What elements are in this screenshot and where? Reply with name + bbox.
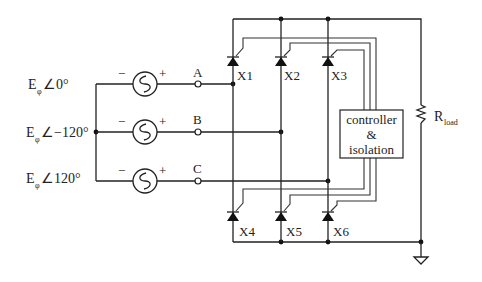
terminal-a-label: A [193,65,203,80]
thyristor-x6-label: X6 [333,224,349,239]
phase-b: − + B E φ ∠−120° [26,112,283,144]
source-c-label-sub: φ [35,181,40,190]
controller-label-line2: & [366,127,376,142]
gate-lead-x6 [331,158,376,211]
source-a-label-angle: ∠0° [43,77,69,92]
thyristor-x1: X1 [227,38,376,110]
thyristor-x6: X6 [322,158,376,239]
source-c-minus: − [118,163,125,178]
controller-isolation-block: controller & isolation [340,110,403,158]
load-label-main: R [434,109,444,124]
thyristor-x1-icon [227,57,239,66]
phase-a: − + A E φ ∠0° [28,65,233,96]
terminal-c [195,178,201,184]
thyristor-x1-label: X1 [237,68,253,83]
thyristor-x5-icon [275,212,287,221]
gate-lead-x1 [236,38,376,110]
ground-icon [414,242,428,264]
load-resistor: R load [417,105,458,127]
gate-lead-x4 [236,158,364,211]
thyristor-x2-icon [275,57,287,66]
thyristor-x2: X2 [275,43,370,110]
resistor-icon [417,105,425,123]
source-b-label-angle: ∠−120° [41,125,89,140]
source-b-label-main: E [26,125,35,140]
source-c-label-main: E [26,171,35,186]
source-a-label-sub: φ [37,87,42,96]
circuit-diagram: − + A E φ ∠0° − + B E φ ∠−120° − + C E φ… [0,0,482,282]
thyristor-x4-label: X4 [239,224,255,239]
thyristor-x6-icon [322,212,334,221]
source-c-plus: + [159,163,166,178]
controller-label-line1: controller [346,112,397,127]
phase-c: − + C E φ ∠120° [26,161,330,193]
source-a-label-main: E [28,77,37,92]
source-a-minus: − [118,66,125,81]
thyristor-x3-icon [322,57,334,66]
terminal-c-label: C [193,161,202,176]
thyristor-x5-label: X5 [286,224,302,239]
terminal-a [195,81,201,87]
controller-label-line3: isolation [349,142,394,157]
terminal-b-label: B [193,112,202,127]
thyristor-x4-icon [227,212,239,221]
source-b-minus: − [118,114,125,129]
source-a-plus: + [159,66,166,81]
thyristor-x3-label: X3 [331,68,347,83]
terminal-b [195,129,201,135]
source-c-label-angle: ∠120° [41,171,81,186]
source-b-plus: + [159,114,166,129]
load-label-sub: load [444,118,458,127]
thyristor-x5: X5 [275,158,370,239]
thyristor-x2-label: X2 [284,68,300,83]
gate-lead-x5 [284,158,370,211]
source-b-label-sub: φ [35,135,40,144]
